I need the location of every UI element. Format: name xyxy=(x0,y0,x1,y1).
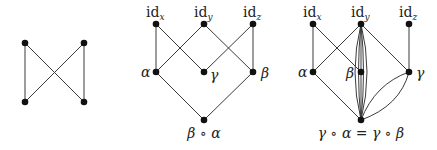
label-id-x: idx xyxy=(303,4,322,22)
node-id-z xyxy=(250,21,257,28)
node-composite xyxy=(358,117,365,124)
lattice-beta-alpha: idx idy idz α γ β β ∘ α xyxy=(141,4,269,141)
label-id-z: idz xyxy=(243,4,261,22)
node-alpha xyxy=(310,69,317,76)
node-id-y xyxy=(201,21,208,28)
crossed-graph xyxy=(22,40,88,106)
lattice-gamma-compositions: idx idy idz α β γ γ ∘ α = γ ∘ β xyxy=(298,4,425,141)
node-id-x xyxy=(153,21,160,28)
node xyxy=(22,40,29,47)
label-beta-circ-alpha: β ∘ α xyxy=(186,125,221,141)
diagram-canvas: idx idy idz α γ β β ∘ α idx idy idz α xyxy=(0,0,437,150)
label-id-z: idz xyxy=(399,4,417,22)
label-gamma: γ xyxy=(416,65,425,81)
node-composite xyxy=(201,117,208,124)
label-id-x: idx xyxy=(146,4,165,22)
node xyxy=(81,99,88,106)
node-id-x xyxy=(310,21,317,28)
label-id-y: idy xyxy=(194,4,213,22)
node-alpha xyxy=(153,69,160,76)
node xyxy=(81,40,88,47)
node xyxy=(22,99,29,106)
label-beta: β xyxy=(260,65,269,81)
label-id-y: idy xyxy=(351,4,370,22)
node-gamma xyxy=(406,69,413,76)
node-beta xyxy=(358,69,365,76)
node-gamma xyxy=(201,69,208,76)
label-alpha: α xyxy=(141,64,151,80)
node-id-z xyxy=(406,21,413,28)
node-beta xyxy=(250,69,257,76)
label-gamma: γ xyxy=(210,67,219,83)
label-beta: β xyxy=(345,65,354,81)
label-alpha: α xyxy=(298,64,308,80)
label-gamma-alpha-equals-gamma-beta: γ ∘ α = γ ∘ β xyxy=(318,125,404,141)
node-id-y xyxy=(358,21,365,28)
